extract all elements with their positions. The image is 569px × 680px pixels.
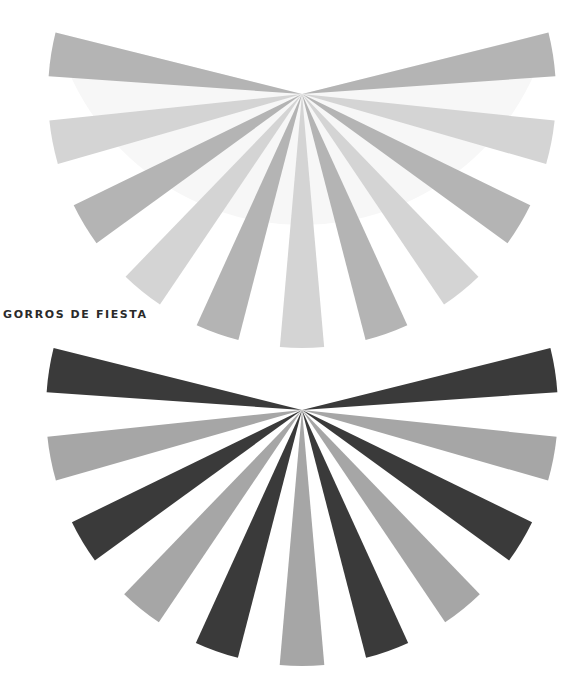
top-fan-pattern	[49, 33, 556, 348]
bottom-fan-pattern	[47, 348, 558, 666]
section-title: GORROS DE FIESTA	[3, 308, 148, 321]
party-hat-patterns	[0, 0, 569, 680]
